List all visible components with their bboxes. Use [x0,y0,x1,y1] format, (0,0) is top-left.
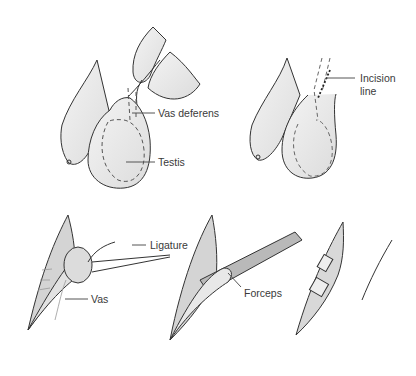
label-forceps: Forceps [244,287,282,299]
panel-3-drawing [28,215,170,330]
panel-2-drawing [250,58,336,178]
label-ligature: Ligature [150,239,188,251]
label-testis: Testis [158,156,185,168]
label-vas-deferens: Vas deferens [158,107,219,119]
panel-4-drawing [170,215,302,340]
label-incision-line-1: Incision [360,72,396,84]
panel-5-drawing [296,222,392,335]
label-vas: Vas [91,293,108,305]
label-incision-line-2: line [360,85,376,97]
illustration [0,0,416,376]
